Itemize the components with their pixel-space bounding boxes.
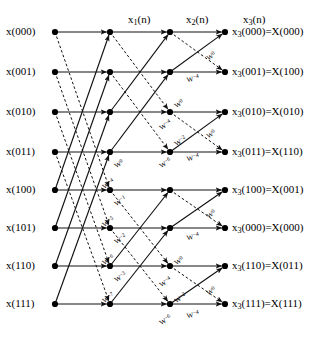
- node-c2-r4: [167, 187, 173, 193]
- stage-header-2: x2(n): [186, 14, 208, 27]
- stage3-cross-dashed-edge: [170, 190, 222, 226]
- stage1-cross-solid-edge: [55, 155, 109, 304]
- output-label-2: x3(010)=X(010): [232, 106, 303, 119]
- node-c2-r7: [167, 301, 173, 307]
- node-c2-r2: [167, 109, 173, 115]
- input-label-x(111): x(111): [6, 298, 35, 309]
- fft-flow-graph-figure: x1(n)x2(n)x3(n)x(000)x(001)x(010)x(011)x…: [0, 0, 329, 345]
- node-c1-r2: [107, 109, 113, 115]
- node-c0-r4: [52, 187, 58, 193]
- stage2-cross-dashed-edge: [110, 32, 168, 109]
- node-c0-r1: [52, 69, 58, 75]
- output-label-3: x3(011)=X(110): [232, 146, 303, 159]
- node-c2-r1: [167, 69, 173, 75]
- node-c0-r7: [52, 301, 58, 307]
- output-label-0: x3(000)=X(000): [232, 26, 303, 39]
- node-c0-r3: [52, 149, 58, 155]
- node-c0-r6: [52, 263, 58, 269]
- node-c0-r2: [52, 109, 58, 115]
- input-label-x(010): x(010): [6, 106, 35, 117]
- node-c1-r1: [107, 69, 113, 75]
- stage1-cross-dashed-edge: [55, 152, 109, 301]
- stage2-cross-solid-edge: [110, 35, 168, 112]
- node-c2-r3: [167, 149, 173, 155]
- input-label-x(011): x(011): [6, 146, 35, 157]
- stage-header-1: x1(n): [128, 14, 150, 27]
- stage1-cross-dashed-edge: [55, 112, 109, 263]
- node-c3-r1: [222, 69, 228, 75]
- output-label-4: x3(100)=X(001): [232, 184, 303, 197]
- output-label-6: x3(110)=X(011): [232, 260, 303, 273]
- node-c3-r5: [222, 225, 228, 231]
- stage1-cross-dashed-edge: [55, 72, 109, 225]
- output-label-7: x3(111)=X(111): [232, 298, 302, 311]
- output-label-1: x3(001)=X(100): [232, 66, 303, 79]
- node-c0-r5: [52, 225, 58, 231]
- stage2-cross-dashed-edge: [110, 72, 168, 149]
- node-c3-r3: [222, 149, 228, 155]
- stage1-cross-dashed-edge: [55, 32, 109, 187]
- node-c2-r5: [167, 225, 173, 231]
- input-label-x(100): x(100): [6, 184, 35, 195]
- stage3-cross-dashed-edge: [170, 32, 222, 70]
- node-c2-r6: [167, 263, 173, 269]
- input-label-x(110): x(110): [6, 260, 35, 271]
- node-c1-r0: [107, 29, 113, 35]
- node-c1-r3: [107, 149, 113, 155]
- output-label-5: x3(000)=X(000): [232, 222, 303, 235]
- node-c2-r0: [167, 29, 173, 35]
- input-label-x(000): x(000): [6, 26, 35, 37]
- input-label-x(101): x(101): [6, 222, 35, 233]
- node-c3-r4: [222, 187, 228, 193]
- node-c3-r6: [222, 263, 228, 269]
- node-c3-r0: [222, 29, 228, 35]
- flow-graph-canvas: [0, 0, 329, 345]
- node-c3-r2: [222, 109, 228, 115]
- node-c3-r7: [222, 301, 228, 307]
- node-c0-r0: [52, 29, 58, 35]
- stage2-cross-solid-edge: [110, 75, 168, 152]
- input-label-x(001): x(001): [6, 66, 35, 77]
